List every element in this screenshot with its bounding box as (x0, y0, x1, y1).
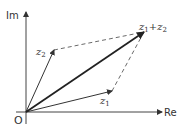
complex-plane-diagram: Im Re O z2 z1 z1+z2 (0, 0, 183, 131)
label-z2: z2 (35, 46, 46, 59)
origin-label: O (14, 114, 23, 127)
imaginary-axis-label: Im (6, 10, 19, 21)
dashed-side-z1-to-sum (112, 32, 144, 91)
label-z1: z1 (99, 95, 110, 108)
real-axis-label: Re (164, 107, 177, 118)
